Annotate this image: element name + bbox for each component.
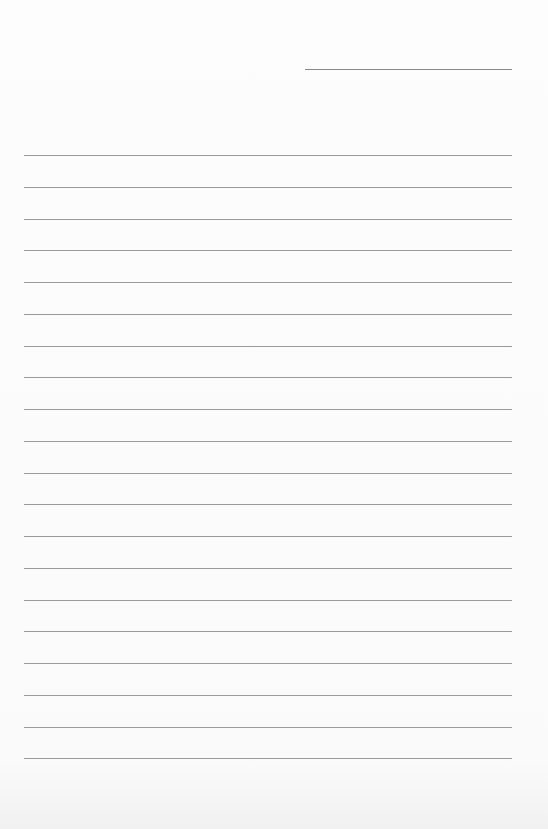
ruled-line: [24, 314, 512, 315]
lined-paper-page: [0, 0, 548, 829]
ruled-line: [24, 568, 512, 569]
ruled-line: [24, 473, 512, 474]
ruled-line: [24, 409, 512, 410]
ruled-line: [24, 250, 512, 251]
ruled-line: [24, 727, 512, 728]
ruled-line: [24, 346, 512, 347]
ruled-line: [24, 282, 512, 283]
ruled-line: [24, 155, 512, 156]
ruled-line: [24, 187, 512, 188]
ruled-lines-area: [0, 0, 548, 829]
ruled-line: [24, 600, 512, 601]
ruled-line: [24, 631, 512, 632]
ruled-line: [24, 219, 512, 220]
ruled-line: [24, 504, 512, 505]
ruled-line: [24, 695, 512, 696]
ruled-line: [24, 536, 512, 537]
ruled-line: [24, 441, 512, 442]
ruled-line: [24, 758, 512, 759]
ruled-line: [24, 377, 512, 378]
ruled-line: [24, 663, 512, 664]
